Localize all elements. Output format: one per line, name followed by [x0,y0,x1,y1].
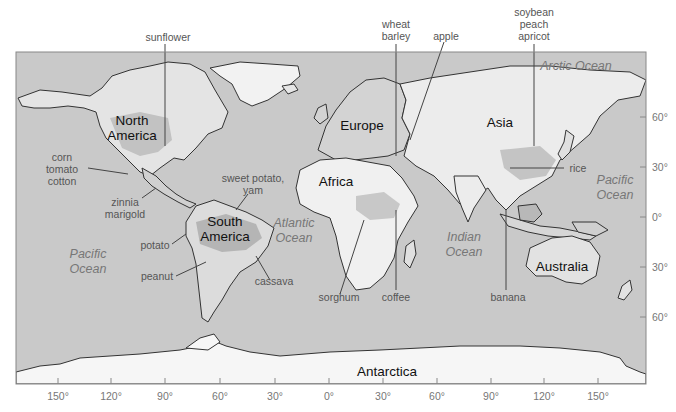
label-line: Asia [487,115,513,130]
label-line: coffee [382,291,410,303]
continent-label-north-america: North America [107,113,157,143]
longitude-tick-label: 0° [324,390,334,402]
label-line: sweet potato, [222,172,284,184]
label-line: zinnia [105,196,145,208]
longitude-tick-label: 30° [375,390,391,402]
label-line: apricot [514,30,554,42]
label-line: barley [382,30,411,42]
latitude-tick-label: 0° [652,211,662,223]
longitude-tick-label: 120° [100,390,122,402]
label-line: Antarctica [357,364,417,379]
continent-label-asia: Asia [487,115,513,130]
label-line: South [200,214,250,229]
label-line: Ocean [70,262,107,277]
crop-label-banana: banana [490,291,525,303]
crop-label-soybean-peach-apricot: soybean peach apricot [514,6,554,42]
crop-label-sweet-potato-yam: sweet potato, yam [222,172,284,196]
label-line: yam [222,184,284,196]
ocean-label-indian: Indian Ocean [446,230,483,260]
crop-label-zinnia-marigold: zinnia marigold [105,196,145,220]
label-line: America [107,128,157,143]
longitude-tick-label: 150° [47,390,69,402]
label-line: marigold [105,208,145,220]
label-line: Ocean [274,231,315,246]
label-line: Arctic Ocean [540,59,612,74]
label-line: Atlantic [274,216,315,231]
latitude-tick-label: 60° [652,111,668,123]
world-crop-origin-map: North America South America Europe Afric… [0,0,676,412]
crop-label-apple: apple [433,30,459,42]
label-line: Pacific [597,173,634,188]
label-line: tomato [46,163,78,175]
label-line: Ocean [446,245,483,260]
label-line: Europe [340,118,384,133]
longitude-tick-label: 30° [267,390,283,402]
label-line: potato [140,239,169,251]
label-line: corn [46,151,78,163]
latitude-tick-label: 30° [652,161,668,173]
crop-label-coffee: coffee [382,291,410,303]
continent-label-africa: Africa [319,174,354,189]
latitude-tick-label: 60° [652,311,668,323]
continent-label-europe: Europe [340,118,384,133]
ocean-label-atlantic: Atlantic Ocean [274,216,315,246]
label-line: soybean [514,6,554,18]
continent-label-south-america: South America [200,214,250,244]
label-line: North [107,113,157,128]
longitude-tick-label: 60° [429,390,445,402]
label-line: Pacific [70,247,107,262]
label-line: Ocean [597,188,634,203]
label-line: banana [490,291,525,303]
label-line: peanut [141,270,173,282]
continent-label-antarctica: Antarctica [357,364,417,379]
continent-label-australia: Australia [536,259,589,274]
latitude-tick-label: 30° [652,261,668,273]
longitude-tick-label: 60° [212,390,228,402]
longitude-tick-label: 90° [157,390,173,402]
longitude-tick-label: 150° [587,390,609,402]
crop-label-wheat-barley: wheat barley [382,18,411,42]
longitude-tick-label: 120° [533,390,555,402]
label-line: sorghum [319,291,360,303]
label-line: rice [570,162,587,174]
label-line: cotton [46,175,78,187]
crop-label-corn-tomato-cotton: corn tomato cotton [46,151,78,187]
label-line: Indian [446,230,483,245]
label-line: cassava [255,275,294,287]
label-line: peach [514,18,554,30]
label-line: Africa [319,174,354,189]
label-line: sunflower [146,31,191,43]
longitude-tick-label: 90° [483,390,499,402]
crop-label-potato: potato [140,239,169,251]
ocean-label-pacific-west: Pacific Ocean [70,247,107,277]
ocean-label-arctic: Arctic Ocean [540,59,612,74]
label-line: wheat [382,18,411,30]
crop-label-peanut: peanut [141,270,173,282]
crop-label-rice: rice [570,162,587,174]
label-line: apple [433,30,459,42]
label-line: Australia [536,259,589,274]
ocean-label-pacific-east: Pacific Ocean [597,173,634,203]
crop-label-sorghum: sorghum [319,291,360,303]
label-line: America [200,229,250,244]
crop-label-sunflower: sunflower [146,31,191,43]
crop-label-cassava: cassava [255,275,294,287]
